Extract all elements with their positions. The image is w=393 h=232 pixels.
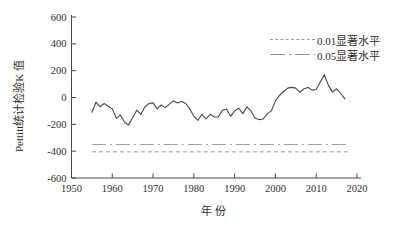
legend-label-0.05: 0.05显著水平 [317, 47, 380, 63]
y-tick-label: 600 [51, 12, 67, 23]
dashdot-line-sample [270, 53, 315, 56]
y-tick-label: -600 [47, 173, 66, 184]
x-axis-title: 年份 [72, 202, 358, 218]
y-tick-label: -400 [47, 146, 66, 157]
x-tick-label: 2010 [306, 183, 327, 194]
y-axis-title: Pettitt统计检验K 值 [12, 21, 26, 191]
legend-label-0.01: 0.01显著水平 [317, 32, 380, 48]
y-tick-label: 0 [61, 92, 66, 103]
legend: 0.01显著水平 0.05显著水平 [270, 32, 380, 62]
pettitt-test-chart: 6004002000-200-400-600195019601970198019… [0, 0, 393, 232]
legend-item-0.05: 0.05显著水平 [270, 47, 380, 62]
x-tick-label: 2000 [265, 183, 286, 194]
x-tick-label: 1990 [224, 183, 245, 194]
legend-item-0.01: 0.01显著水平 [270, 32, 380, 47]
x-tick-label: 1970 [143, 183, 164, 194]
k-value-line [92, 75, 345, 125]
x-tick-label: 1980 [183, 183, 204, 194]
y-tick-label: -200 [47, 119, 66, 130]
y-tick-label: 200 [51, 65, 67, 76]
x-tick-label: 2020 [347, 183, 368, 194]
dashed-line-sample [270, 39, 315, 40]
x-tick-label: 1960 [102, 183, 123, 194]
x-tick-label: 1950 [61, 183, 82, 194]
y-tick-label: 400 [51, 38, 67, 49]
